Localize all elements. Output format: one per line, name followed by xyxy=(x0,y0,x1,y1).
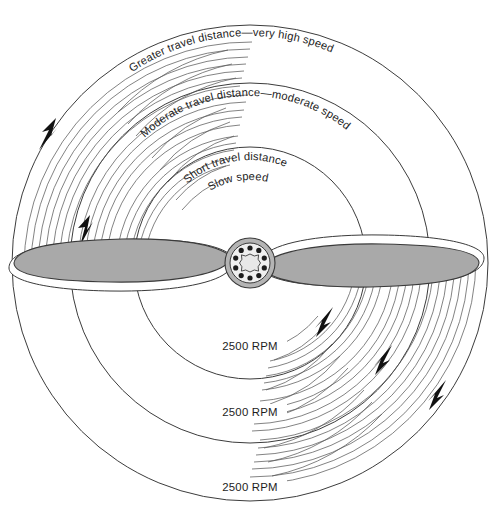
rotation-arrow-icon xyxy=(39,118,57,150)
propeller xyxy=(9,235,484,291)
hub-star-icon xyxy=(240,254,261,272)
diagram-canvas: Greater travel distance—very high speed … xyxy=(0,0,493,511)
label-rpm-middle: 2500 RPM xyxy=(222,406,277,418)
label-rpm-inner: 2500 RPM xyxy=(222,340,277,352)
propeller-blade-left xyxy=(9,239,233,291)
label-rpm-outer: 2500 RPM xyxy=(222,481,277,493)
label-slow-speed: Slow speed xyxy=(206,170,270,193)
propeller-speed-diagram: Greater travel distance—very high speed … xyxy=(0,0,493,511)
propeller-hub-icon xyxy=(225,238,275,288)
propeller-blade-right xyxy=(260,235,484,287)
